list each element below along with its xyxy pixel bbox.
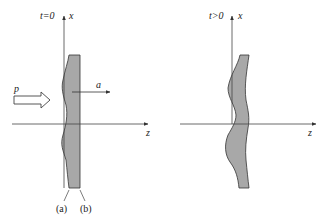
leader-a <box>64 190 69 201</box>
surface-b-label: (b) <box>80 204 92 214</box>
right-z-axis-label: z <box>308 128 312 138</box>
right-panel <box>180 16 316 188</box>
right-slab <box>226 55 249 188</box>
leader-b <box>80 190 85 201</box>
right-x-axis-label: x <box>238 11 242 21</box>
right-time-label: t>0 <box>209 11 224 21</box>
surface-a-label: (a) <box>56 204 67 214</box>
left-x-axis-label: x <box>69 11 73 21</box>
acceleration-label: a <box>96 80 101 90</box>
left-time-label: t=0 <box>40 11 55 21</box>
left-slab <box>62 55 80 188</box>
pressure-arrow-icon <box>14 92 50 108</box>
rayleigh-taylor-slab-diagram <box>0 0 324 223</box>
pressure-label: p <box>14 84 19 94</box>
left-z-axis-label: z <box>146 128 150 138</box>
left-panel <box>12 16 148 201</box>
